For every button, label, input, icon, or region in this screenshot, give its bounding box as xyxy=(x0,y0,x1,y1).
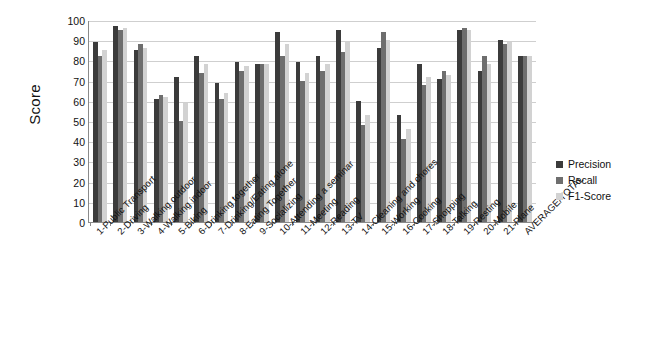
y-axis-tick-label: 20 xyxy=(73,177,85,189)
legend-item-precision: Precision xyxy=(556,158,664,170)
y-axis-tick-label: 100 xyxy=(67,15,85,27)
y-axis-tick-label: 90 xyxy=(73,35,85,47)
legend-swatch-icon xyxy=(556,193,563,200)
y-axis-tick-label: 70 xyxy=(73,76,85,88)
y-axis-tick-label: 50 xyxy=(73,116,85,128)
bar-group xyxy=(474,21,494,222)
bar-f1 xyxy=(102,50,107,222)
legend-label: F1-Score xyxy=(568,190,611,202)
x-axis-labels: 1-Public Transport2-Driving3-Walking out… xyxy=(88,227,536,352)
bar-f1 xyxy=(386,40,391,222)
legend-item-f1score: F1-Score xyxy=(556,190,664,202)
bar-group xyxy=(110,21,130,222)
bar-f1 xyxy=(123,28,128,222)
legend: Precision Recall F1-Score xyxy=(556,158,664,206)
bar-f1 xyxy=(527,56,532,222)
bar-group xyxy=(90,21,110,222)
bar-f1 xyxy=(507,42,512,222)
y-axis-tick-label: 60 xyxy=(73,96,85,108)
bar-group xyxy=(373,21,393,222)
legend-item-recall: Recall xyxy=(556,174,664,186)
bar-f1 xyxy=(467,30,472,222)
bar-group xyxy=(151,21,171,222)
bar-f1 xyxy=(345,42,350,222)
legend-label: Recall xyxy=(568,174,597,186)
y-axis-tick-label: 10 xyxy=(73,197,85,209)
bar-group xyxy=(434,21,454,222)
bar-group xyxy=(414,21,434,222)
y-axis-tick-label: 80 xyxy=(73,55,85,67)
y-axis-title: Score xyxy=(26,84,43,125)
bar-group xyxy=(515,21,535,222)
y-axis-tick-label: 30 xyxy=(73,156,85,168)
bar-group xyxy=(211,21,231,222)
y-axis-tick-label: 40 xyxy=(73,136,85,148)
legend-swatch-icon xyxy=(556,177,563,184)
bar-f1 xyxy=(143,48,148,222)
legend-swatch-icon xyxy=(556,161,563,168)
bar-chart: Score 0102030405060708090100 1-Public Tr… xyxy=(0,0,670,354)
bar-group xyxy=(495,21,515,222)
x-axis-tick xyxy=(90,222,91,226)
bar-group xyxy=(353,21,373,222)
y-axis-tick-label: 0 xyxy=(79,217,85,229)
bar-group xyxy=(333,21,353,222)
bar-f1 xyxy=(365,115,370,222)
legend-label: Precision xyxy=(568,158,611,170)
bar-f1 xyxy=(204,64,209,222)
